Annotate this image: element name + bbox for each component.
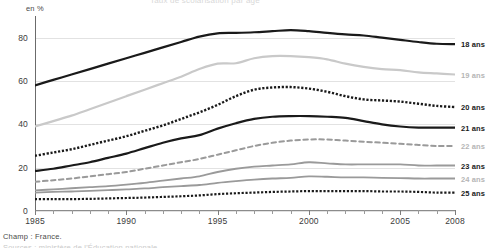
series-line-25-ans (35, 191, 455, 199)
y-axis-tick-label: 0 (0, 206, 28, 216)
y-axis-tick-label: 60 (0, 76, 28, 86)
x-axis-tick-label: 2000 (299, 216, 319, 226)
y-axis-tick-label: 20 (0, 163, 28, 173)
chart-caption: Champ : France. (3, 232, 62, 241)
x-axis-tick-label: 2005 (390, 216, 410, 226)
y-axis-tick-label: 80 (0, 33, 28, 43)
chart-source-cutoff: Sources : ministère de l'Éducation natio… (3, 243, 160, 248)
y-axis-unit-label: en % (26, 4, 44, 13)
chart-title-cutoff: Taux de scolarisation par âge (150, 0, 350, 5)
x-axis-tick-label: 1985 (25, 216, 45, 226)
plot-area (35, 16, 455, 211)
x-axis-tick (455, 210, 456, 215)
y-axis-tick-label: 40 (0, 119, 28, 129)
series-line-18-ans (35, 30, 455, 85)
series-line-23-ans (35, 162, 455, 190)
x-axis-tick-label: 2008 (445, 216, 465, 226)
legend-item-22-ans[interactable]: 22 ans (461, 142, 485, 151)
legend-item-18-ans[interactable]: 18 ans (461, 40, 485, 49)
legend-item-25-ans[interactable]: 25 ans (461, 188, 485, 197)
x-axis-tick-label: 1995 (208, 216, 228, 226)
series-line-24-ans (35, 176, 455, 192)
legend-item-23-ans[interactable]: 23 ans (461, 161, 485, 170)
x-axis-tick-label: 1990 (116, 216, 136, 226)
legend-item-19-ans[interactable]: 19 ans (461, 70, 485, 79)
legend-item-24-ans[interactable]: 24 ans (461, 174, 485, 183)
legend-item-21-ans[interactable]: 21 ans (461, 123, 485, 132)
legend-item-20-ans[interactable]: 20 ans (461, 103, 485, 112)
